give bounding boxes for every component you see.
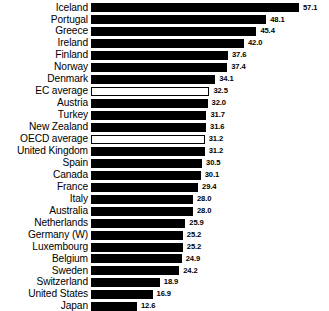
category-label: Austria [0,97,91,110]
bar-area: 31.7 [91,110,329,122]
chart-row: OECD average31.2 [0,133,329,145]
chart-row: New Zealand31.6 [0,122,329,134]
bar [91,183,198,192]
bar [91,99,208,108]
value-label: 42.0 [244,37,262,50]
bar-area: 32.5 [91,86,329,98]
bar-area: 31.6 [91,122,329,134]
bar [91,75,215,84]
chart-row: Norway37.4 [0,62,329,74]
value-label: 16.9 [153,288,171,301]
chart-row: Switzerland18.9 [0,277,329,289]
bar-area: 28.0 [91,205,329,217]
chart-row: Sweden24.2 [0,265,329,277]
value-label: 45.4 [256,25,274,38]
bar-area: 28.0 [91,193,329,205]
value-label: 37.4 [227,61,245,74]
value-label: 25.9 [185,217,203,230]
value-label: 24.9 [182,253,200,266]
bar [91,159,202,168]
bar [91,254,182,263]
category-label: Netherlands [0,217,91,230]
category-label: Iceland [0,2,91,15]
bar-area: 57.1 [91,2,329,14]
value-label: 31.2 [205,133,223,146]
bar [91,290,153,299]
category-label: Australia [0,205,91,218]
chart-row: Finland37.6 [0,50,329,62]
chart-row: Luxembourg25.2 [0,241,329,253]
value-label: 34.1 [215,73,233,86]
bar [91,207,193,216]
bar [91,302,137,311]
category-label: Ireland [0,37,91,50]
bar-area: 25.9 [91,217,329,229]
category-label: Greece [0,25,91,38]
category-label: Spain [0,157,91,170]
value-label: 37.6 [228,49,246,62]
value-label: 12.6 [137,300,155,311]
value-label: 31.2 [205,145,223,158]
bar [91,111,206,120]
chart-row: Portugal48.1 [0,14,329,26]
bar [91,3,299,12]
bar [91,39,244,48]
chart-row: United Kingdom31.2 [0,145,329,157]
chart-row: United States16.9 [0,289,329,301]
value-label: 25.2 [183,229,201,242]
chart-row: Greece45.4 [0,26,329,38]
bar [91,63,227,72]
chart-row: Denmark34.1 [0,74,329,86]
chart-row: EC average32.5 [0,86,329,98]
bar-area: 31.2 [91,133,329,145]
category-label: France [0,181,91,194]
value-label: 30.1 [201,169,219,182]
value-label: 32.0 [208,97,226,110]
chart-row: Netherlands25.9 [0,217,329,229]
bar-area: 16.9 [91,289,329,301]
value-label: 30.5 [202,157,220,170]
bar-area: 37.6 [91,50,329,62]
bar [91,147,205,156]
bar-area: 24.2 [91,265,329,277]
bar-area: 31.2 [91,145,329,157]
chart-row: Belgium24.9 [0,253,329,265]
value-label: 25.2 [183,241,201,254]
bar-area: 30.5 [91,157,329,169]
category-label: United Kingdom [0,145,91,158]
value-label: 31.7 [206,109,224,122]
bar [91,51,228,60]
category-label: Norway [0,61,91,74]
horizontal-bar-chart: Iceland57.1Portugal48.1Greece45.4Ireland… [0,0,329,311]
category-label: Luxembourg [0,241,91,254]
bar-area: 45.4 [91,26,329,38]
bar-area: 25.2 [91,229,329,241]
chart-row: Canada30.1 [0,169,329,181]
bar-area: 34.1 [91,74,329,86]
bar [91,15,266,24]
bar [91,278,160,287]
bar [91,231,183,240]
value-label: 28.0 [193,193,211,206]
bar [91,27,256,36]
category-label: Germany (W) [0,229,91,242]
category-label: Canada [0,169,91,182]
chart-row: Ireland42.0 [0,38,329,50]
chart-row: Iceland57.1 [0,2,329,14]
bar-area: 48.1 [91,14,329,26]
bar [91,171,201,180]
chart-row: Germany (W)25.2 [0,229,329,241]
bar-area: 25.2 [91,241,329,253]
bar [91,219,185,228]
category-label: New Zealand [0,121,91,134]
category-label: Italy [0,193,91,206]
chart-row: Italy28.0 [0,193,329,205]
bar-area: 32.0 [91,98,329,110]
chart-row: Australia28.0 [0,205,329,217]
value-label: 31.6 [206,121,224,134]
category-label: EC average [0,85,91,98]
value-label: 29.4 [198,181,216,194]
value-label: 18.9 [160,276,178,289]
chart-row: Turkey31.7 [0,110,329,122]
value-label: 28.0 [193,205,211,218]
